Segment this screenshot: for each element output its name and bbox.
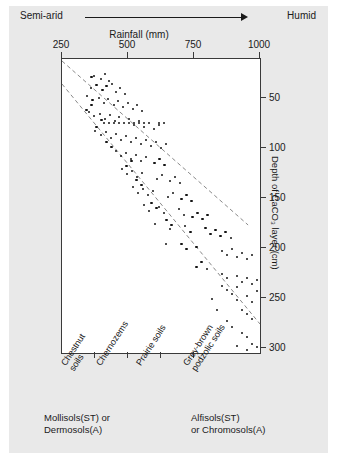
data-point xyxy=(219,235,221,237)
classification-left: Mollisols(ST) or Dermosols(A) xyxy=(44,412,110,437)
data-point xyxy=(135,179,137,181)
data-point xyxy=(185,194,187,196)
data-point xyxy=(191,216,193,218)
lower-bound xyxy=(62,84,260,324)
category-divider-1 xyxy=(127,352,128,358)
y-tick-label-250: 250 xyxy=(269,292,286,303)
semi-arid-label: Semi-arid xyxy=(20,10,63,21)
data-point xyxy=(158,158,160,160)
plot-area xyxy=(62,59,260,353)
x-tick-label-500: 500 xyxy=(119,39,136,50)
data-point xyxy=(190,200,192,202)
data-point xyxy=(163,164,165,166)
data-point xyxy=(105,85,107,87)
x-tick-label-1000: 1000 xyxy=(248,39,270,50)
data-point xyxy=(180,243,182,245)
classification-right: Alfisols(ST) or Chromosols(A) xyxy=(191,412,265,437)
data-point xyxy=(110,146,112,148)
data-point xyxy=(95,126,97,128)
y-tick-label-200: 200 xyxy=(269,242,286,253)
data-point xyxy=(105,141,107,143)
y-tick-label-150: 150 xyxy=(269,192,286,203)
data-point xyxy=(125,165,127,167)
data-point xyxy=(230,237,232,239)
data-point xyxy=(200,261,202,263)
data-point xyxy=(90,104,92,106)
figure-panel: Semi-arid Humid Rainfall (mm) Depth of C… xyxy=(9,6,328,453)
data-point xyxy=(209,233,211,235)
data-point xyxy=(153,162,155,164)
data-point xyxy=(195,246,197,248)
category-divider-2 xyxy=(160,352,161,358)
data-point xyxy=(204,227,206,229)
data-point xyxy=(180,198,182,200)
data-point xyxy=(95,84,97,86)
x-axis-title: Rainfall (mm) xyxy=(9,29,269,40)
data-point xyxy=(100,119,102,121)
data-point xyxy=(91,99,93,101)
data-point xyxy=(195,266,197,268)
plot-frame xyxy=(61,58,261,354)
data-point xyxy=(101,89,103,91)
data-point xyxy=(196,212,198,214)
data-point xyxy=(224,231,226,233)
data-point xyxy=(214,229,216,231)
data-point xyxy=(130,160,132,162)
data-point xyxy=(170,224,172,226)
y-tick-label-50: 50 xyxy=(269,92,280,103)
data-point xyxy=(185,248,187,250)
data-point xyxy=(211,298,213,300)
data-point xyxy=(150,202,152,204)
data-point xyxy=(206,214,208,216)
x-tick-label-750: 750 xyxy=(185,39,202,50)
right-arrow-icon xyxy=(241,13,248,21)
data-point xyxy=(165,219,167,221)
humid-label: Humid xyxy=(287,10,316,21)
y-tick-label-100: 100 xyxy=(269,142,286,153)
data-point xyxy=(140,184,142,186)
data-point xyxy=(189,231,191,233)
data-point xyxy=(85,109,87,111)
data-point xyxy=(201,218,203,220)
y-axis-title: Depth of CaCO₃ layer (cm) xyxy=(270,156,281,270)
gradient-line xyxy=(85,17,243,18)
category-divider-0 xyxy=(94,352,95,358)
data-point xyxy=(155,207,157,209)
x-tick-label-250: 250 xyxy=(53,39,70,50)
y-tick-label-300: 300 xyxy=(269,342,286,353)
